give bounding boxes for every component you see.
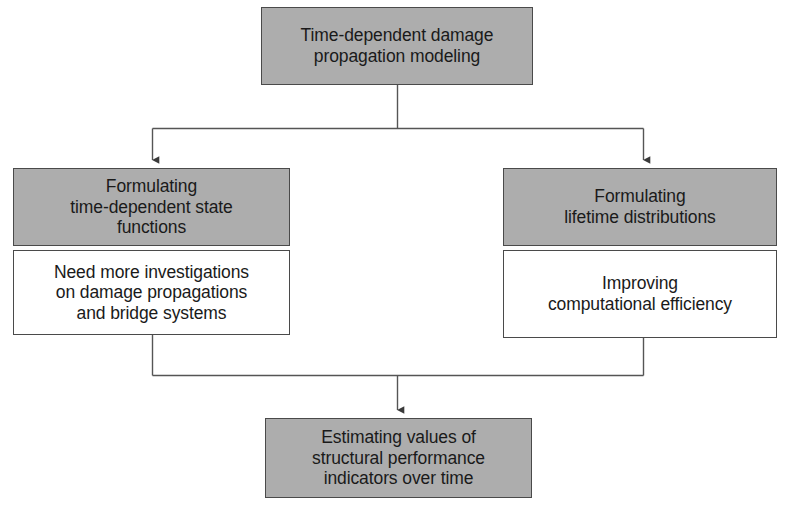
node-branch-right-header-label: Formulating lifetime distributions <box>564 186 715 227</box>
node-branch-right-header: Formulating lifetime distributions <box>503 168 777 246</box>
flowchart-diagram: Time-dependent damage propagation modeli… <box>0 0 789 513</box>
node-branch-left-body: Need more investigations on damage propa… <box>13 250 290 335</box>
node-branch-left-header-label: Formulating time-dependent state functio… <box>70 176 232 238</box>
node-outcome-label: Estimating values of structural performa… <box>312 427 485 489</box>
node-outcome: Estimating values of structural performa… <box>265 418 532 498</box>
node-root: Time-dependent damage propagation modeli… <box>261 7 533 85</box>
node-root-label: Time-dependent damage propagation modeli… <box>301 25 494 66</box>
node-branch-right-body: Improving computational efficiency <box>503 250 777 338</box>
node-branch-left-header: Formulating time-dependent state functio… <box>13 168 290 246</box>
node-branch-left-body-label: Need more investigations on damage propa… <box>54 262 249 324</box>
node-branch-right-body-label: Improving computational efficiency <box>548 273 732 314</box>
